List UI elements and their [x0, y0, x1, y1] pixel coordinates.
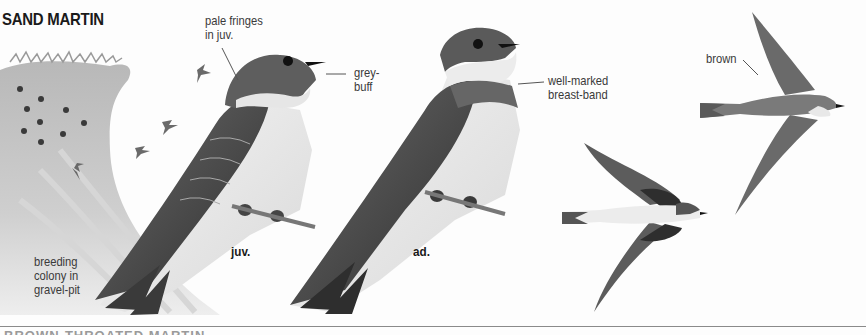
flight-underside-figure — [562, 143, 708, 312]
section-divider — [0, 326, 866, 327]
annotation-line: well-marked — [548, 74, 608, 88]
annotation-line: colony in — [34, 269, 80, 283]
grey-buff-annotation: grey- buff — [354, 66, 379, 94]
annotation-line: grey- — [354, 66, 379, 80]
pale-fringes-annotation: pale fringes in juv. — [205, 14, 263, 42]
annotation-line: breeding — [34, 255, 80, 269]
juvenile-label: juv. — [231, 244, 250, 259]
brown-annotation: brown — [706, 52, 736, 66]
field-guide-page: SAND MARTIN pale fringes in juv. grey- b… — [0, 0, 866, 335]
breeding-colony-annotation: breeding colony in gravel-pit — [34, 255, 80, 297]
next-species-title: BROWN-THROATED MARTIN — [4, 329, 205, 335]
annotation-line: buff — [354, 80, 379, 94]
species-title: SAND MARTIN — [2, 10, 104, 30]
adult-label: ad. — [413, 244, 430, 259]
annotation-line: pale fringes — [205, 14, 263, 28]
adult-martin-figure — [290, 28, 520, 314]
annotation-line: in juv. — [205, 28, 263, 42]
juvenile-martin-figure — [95, 55, 326, 315]
breast-band-annotation: well-marked breast-band — [548, 74, 608, 102]
flight-upperside-figure — [700, 12, 845, 215]
annotation-line: gravel-pit — [34, 283, 80, 297]
annotation-line: breast-band — [548, 88, 608, 102]
